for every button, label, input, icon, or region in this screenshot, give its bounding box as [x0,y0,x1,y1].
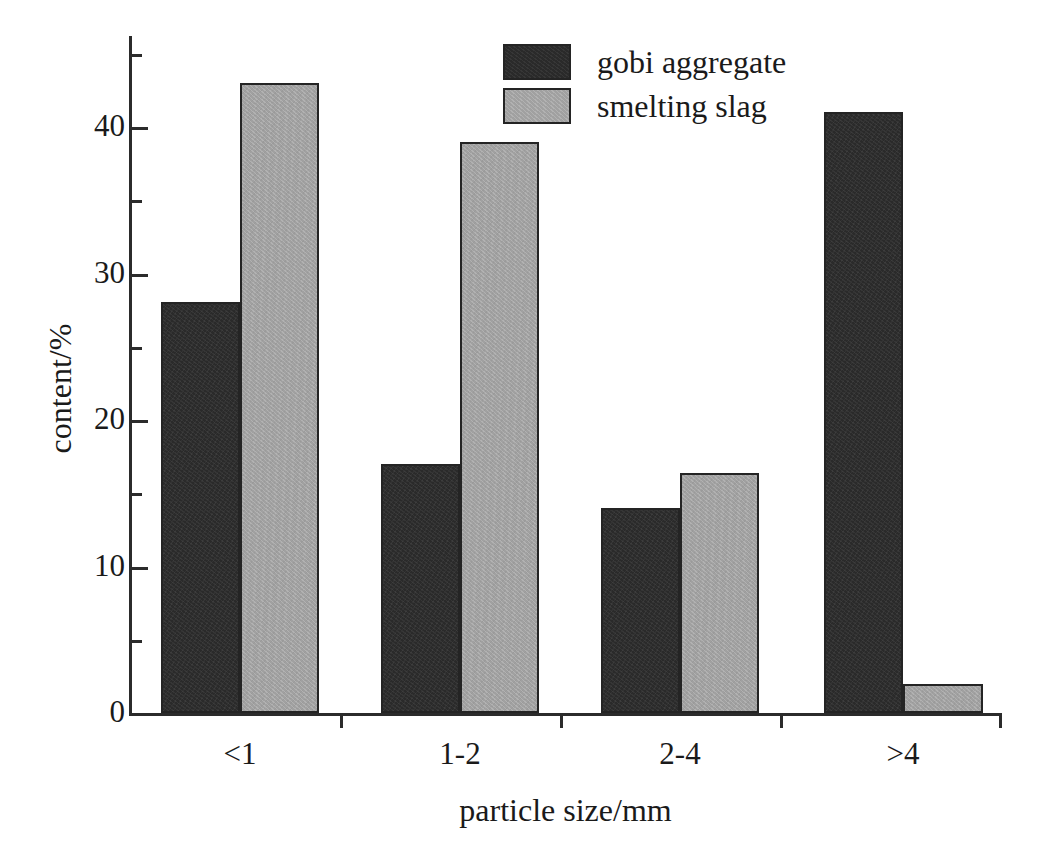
bar-gobi-aggregate-2-4 [601,508,680,713]
y-tick-minor-45 [132,54,142,57]
y-tick-label-0: 0 [63,696,125,727]
y-tick-label-40: 40 [63,110,125,141]
gray-swatch-icon [503,88,571,124]
bar-smelting-slag-1-2 [460,142,539,713]
y-axis-title: content/% [42,259,79,519]
legend-label-smelting-slag: smelting slag [597,89,767,123]
bar-gobi-aggregate-1-2 [381,464,460,713]
y-tick-minor-15 [132,493,142,496]
legend-label-gobi-aggregate: gobi aggregate [597,45,786,79]
x-tick-3 [780,716,783,728]
bar-chart-figure: 40 30 20 10 0 <1 1-2 2- [0,0,1053,848]
y-tick-major-20 [132,420,148,423]
x-tick-label-1-2: 1-2 [380,735,540,773]
y-tick-major-40 [132,127,148,130]
dark-swatch-icon [503,44,571,80]
x-tick-4 [999,716,1002,728]
x-tick-label-lt1: <1 [160,735,320,773]
bar-gobi-aggregate-lt1 [161,302,240,713]
chart-legend: gobi aggregate smelting slag [503,40,933,128]
y-tick-minor-5 [132,640,142,643]
legend-item-gobi-aggregate: gobi aggregate [503,40,933,84]
x-axis-title: particle size/mm [129,792,1002,829]
x-tick-1 [340,716,343,728]
y-axis-line [129,36,132,715]
x-tick-label-gt4: >4 [823,735,983,773]
bar-smelting-slag-gt4 [903,684,983,713]
y-tick-major-30 [132,274,148,277]
x-tick-2 [560,716,563,728]
y-tick-major-10 [132,567,148,570]
bar-smelting-slag-lt1 [240,83,319,713]
y-tick-label-10: 10 [63,550,125,581]
legend-item-smelting-slag: smelting slag [503,84,933,128]
x-tick-label-2-4: 2-4 [600,735,760,773]
x-axis-line [129,713,1002,716]
y-tick-minor-25 [132,347,142,350]
y-tick-minor-35 [132,200,142,203]
y-tick-major-0 [132,713,148,716]
bar-smelting-slag-2-4 [680,473,759,713]
bar-gobi-aggregate-gt4 [824,112,903,713]
plot-area: 40 30 20 10 0 <1 1-2 2- [0,0,1053,848]
